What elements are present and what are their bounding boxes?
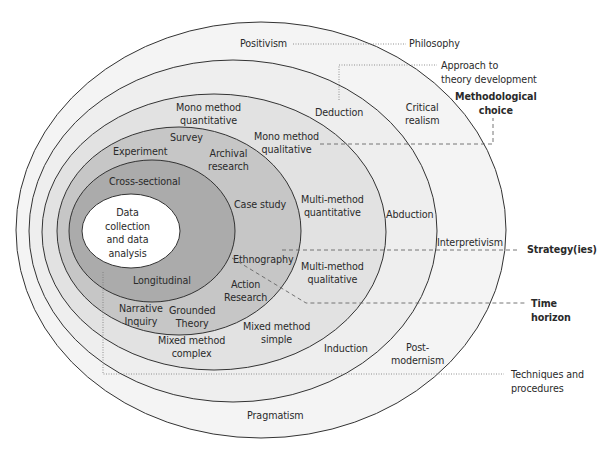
label-mono-quant-line2: quantitative: [180, 115, 237, 126]
callout-time-line1: Time: [531, 298, 557, 309]
label-longitudinal: Longitudinal: [133, 275, 191, 287]
label-core: Data collection and data analysis: [105, 206, 150, 260]
label-case-study: Case study: [234, 199, 286, 211]
callout-approach: Approach to theory development: [441, 59, 537, 86]
label-mixed-complex: Mixed method complex: [158, 334, 225, 360]
label-mono-qual-line2: qualitative: [262, 144, 312, 155]
label-grounded-theory: Grounded Theory: [169, 304, 215, 330]
label-positivism: Positivism: [240, 38, 287, 50]
label-experiment: Experiment: [113, 146, 167, 158]
label-multi-qual: Multi-method qualitative: [301, 260, 364, 286]
label-multi-quant: Multi-method quantitative: [301, 193, 364, 219]
label-action-research: Action Research: [224, 278, 267, 304]
label-narrative-line1: Narrative: [119, 303, 163, 314]
label-mono-qual: Mono method qualitative: [254, 130, 319, 156]
label-action-line1: Action: [231, 279, 260, 290]
label-core-line2: collection: [105, 221, 150, 232]
label-induction: Induction: [324, 343, 368, 355]
label-postmodernism: Post- modernism: [391, 341, 444, 367]
label-action-line2: Research: [224, 292, 267, 303]
label-critical-realism: Critical realism: [405, 101, 440, 127]
label-mixed-simple: Mixed method simple: [243, 320, 310, 346]
label-pragmatism: Pragmatism: [247, 410, 304, 422]
label-multi-quant-line2: quantitative: [304, 207, 361, 218]
callout-approach-line1: Approach to: [441, 60, 498, 71]
label-mono-quant: Mono method quantitative: [176, 101, 241, 127]
callout-techniques-line1: Techniques and: [511, 369, 584, 380]
label-postmodernism-line2: modernism: [391, 355, 444, 366]
label-mixed-simple-line2: simple: [261, 334, 292, 345]
callout-techniques-line2: procedures: [511, 383, 564, 394]
label-mono-quant-line1: Mono method: [176, 102, 241, 113]
label-core-line3: and data: [107, 234, 149, 245]
label-grounded-line2: Theory: [176, 318, 209, 329]
label-core-line4: analysis: [108, 248, 146, 259]
label-narrative-line2: Inquiry: [125, 316, 158, 327]
label-mixed-simple-line1: Mixed method: [243, 321, 310, 332]
label-multi-quant-line1: Multi-method: [301, 194, 364, 205]
label-core-line1: Data: [116, 207, 139, 218]
label-postmodernism-line1: Post-: [406, 342, 429, 353]
callout-techniques: Techniques and procedures: [511, 368, 584, 395]
callout-time-line2: horizon: [531, 312, 571, 323]
label-mixed-complex-line1: Mixed method: [158, 335, 225, 346]
label-ethnography: Ethnography: [233, 254, 294, 266]
label-interpretivism: Interpretivism: [437, 237, 503, 249]
callout-approach-line2: theory development: [441, 74, 537, 85]
label-multi-qual-line1: Multi-method: [301, 261, 364, 272]
label-critical-realism-line1: Critical: [406, 102, 439, 113]
label-critical-realism-line2: realism: [405, 115, 440, 126]
label-multi-qual-line2: qualitative: [307, 274, 357, 285]
callout-time-horizon: Time horizon: [531, 297, 571, 324]
callout-methodological: Methodological choice: [455, 90, 537, 117]
label-cross-sectional: Cross-sectional: [109, 176, 180, 188]
label-archival: Archival research: [208, 147, 249, 173]
callout-methodological-line2: choice: [479, 105, 513, 116]
callout-strategy: Strategy(ies): [527, 244, 597, 256]
label-narrative-inquiry: Narrative Inquiry: [119, 302, 163, 328]
label-archival-line1: Archival: [209, 148, 247, 159]
label-abduction: Abduction: [386, 209, 434, 221]
callout-methodological-line1: Methodological: [455, 91, 537, 102]
label-deduction: Deduction: [315, 107, 363, 119]
label-archival-line2: research: [208, 161, 249, 172]
label-mixed-complex-line2: complex: [172, 348, 212, 359]
label-grounded-line1: Grounded: [169, 305, 215, 316]
label-mono-qual-line1: Mono method: [254, 131, 319, 142]
callout-philosophy: Philosophy: [409, 38, 460, 50]
label-survey: Survey: [170, 132, 203, 144]
